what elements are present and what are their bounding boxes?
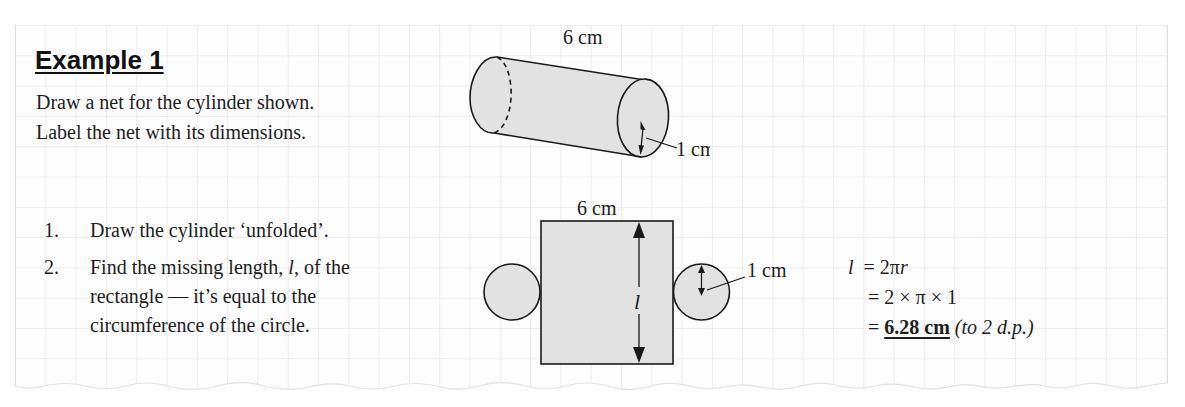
working-rhs-prefix: = 2π bbox=[864, 256, 900, 278]
net-radius-label: 1 cm bbox=[747, 259, 787, 281]
step-2-line-1-before: Find the missing length, bbox=[90, 256, 288, 278]
net-length-variable: l bbox=[634, 289, 640, 314]
net-rectangle bbox=[541, 221, 673, 364]
working-lhs: l bbox=[848, 256, 854, 278]
step-2-line-1: Find the missing length, l, of the bbox=[90, 257, 350, 277]
question-line-1: Draw a net for the cylinder shown. bbox=[36, 92, 314, 112]
step-2-line-3: circumference of the circle. bbox=[90, 315, 310, 335]
working-line-2: = 2 × π × 1 bbox=[868, 287, 957, 307]
step-2-line-1-after: , of the bbox=[294, 256, 350, 278]
step-1-text: Draw the cylinder ‘unfolded’. bbox=[90, 220, 329, 240]
step-2-line-2: rectangle — it’s equal to the bbox=[90, 286, 316, 306]
cylinder-length-label: 6 cm bbox=[563, 26, 603, 48]
step-1-number: 1. bbox=[44, 220, 59, 240]
cylinder-radius-label: 1 cm bbox=[676, 138, 710, 160]
working-line-1: l= 2πr bbox=[848, 257, 908, 277]
rounding-note: (to 2 d.p.) bbox=[955, 316, 1034, 338]
working-line-3: = 6.28 cm (to 2 d.p.) bbox=[868, 317, 1034, 337]
cylinder-diagram: 6 cm 1 cm bbox=[450, 20, 710, 170]
example-heading: Example 1 bbox=[35, 45, 164, 75]
net-diagram: l 6 cm 1 cm bbox=[470, 195, 810, 375]
final-answer: 6.28 cm bbox=[884, 316, 950, 338]
net-width-label: 6 cm bbox=[577, 197, 617, 219]
worksheet: Example 1 Draw a net for the cylinder sh… bbox=[0, 0, 1185, 407]
step-2-number: 2. bbox=[44, 257, 59, 277]
working-rhs-var: r bbox=[900, 256, 908, 278]
net-left-circle bbox=[484, 264, 540, 320]
working-line-3-prefix: = bbox=[868, 316, 884, 338]
question-line-2: Label the net with its dimensions. bbox=[36, 122, 306, 142]
